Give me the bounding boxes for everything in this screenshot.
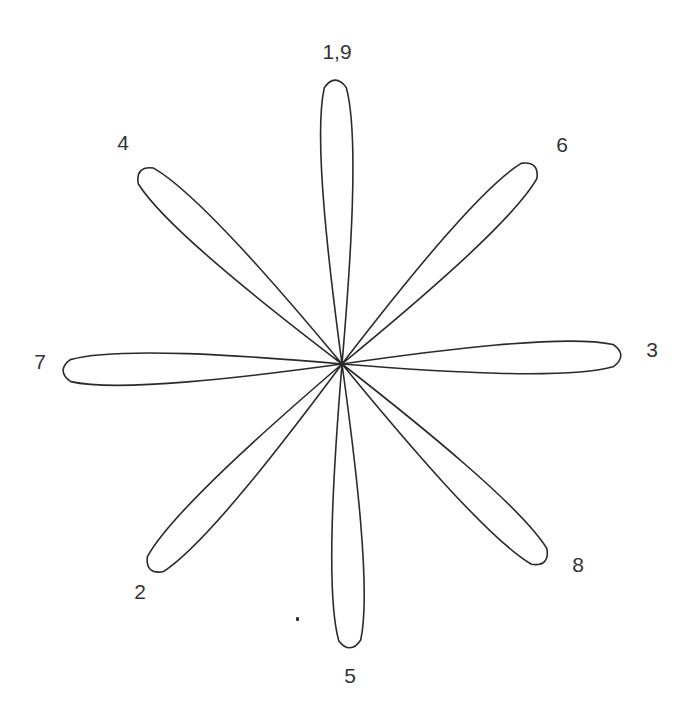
petal-label-7: 7 (34, 350, 46, 374)
petal-label-1-9: 1,9 (322, 40, 351, 64)
stray-mark (296, 617, 299, 621)
petal-label-8: 8 (572, 553, 584, 577)
petal-3 (341, 339, 621, 380)
petals-group (63, 80, 622, 649)
petal-2 (139, 353, 354, 580)
petal-label-5: 5 (344, 664, 356, 688)
petal-7 (63, 348, 343, 387)
rose-diagram (0, 0, 686, 721)
petal-label-2: 2 (134, 580, 146, 604)
petal-5 (326, 364, 366, 649)
petal-4 (130, 159, 353, 375)
petal-1-9 (319, 80, 358, 365)
petal-8 (331, 353, 556, 574)
petal-label-6: 6 (556, 133, 568, 157)
petal-6 (331, 155, 546, 375)
petal-label-4: 4 (117, 131, 129, 155)
petal-label-3: 3 (646, 338, 658, 362)
